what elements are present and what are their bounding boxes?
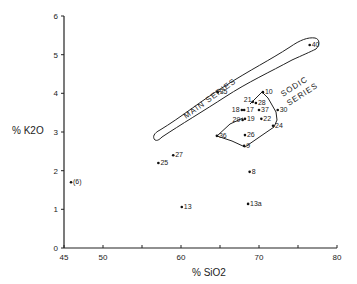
x-tick-label: 70	[255, 253, 264, 262]
y-tick-label: 1	[54, 205, 59, 214]
data-point-label: 36	[219, 132, 227, 139]
data-point	[247, 203, 250, 206]
data-point-label: 30	[280, 106, 288, 113]
data-point-label: 13	[184, 203, 192, 210]
data-point-label: 17	[246, 106, 254, 113]
y-tick-label: 6	[54, 12, 59, 21]
data-point	[244, 134, 247, 137]
x-tick-label: 50	[99, 253, 108, 262]
data-point-label: 9	[246, 142, 250, 149]
data-point-label: 18	[232, 106, 240, 113]
data-point-label: (6)	[73, 178, 82, 186]
y-axis-label: % K2O	[12, 125, 44, 136]
data-point-label: 25	[160, 159, 168, 166]
data-point-label: 26	[247, 131, 255, 138]
data-point	[157, 162, 160, 165]
data-point	[308, 44, 311, 47]
data-point	[272, 125, 275, 128]
data-point-label: 8	[252, 168, 256, 175]
data-point	[251, 101, 254, 104]
data-point-label: 10	[265, 88, 273, 95]
y-tick-label: 5	[54, 51, 59, 60]
y-tick-label: 4	[54, 89, 59, 98]
data-point	[216, 91, 219, 94]
data-point	[260, 118, 263, 121]
data-point	[248, 171, 251, 174]
data-point	[243, 109, 246, 112]
data-point	[70, 181, 73, 184]
data-point	[243, 145, 246, 148]
data-point-label: 35	[220, 88, 228, 95]
chart-canvas: 0 1 2 3 4 5 6 45 50 60 70 80 % K2O % SiO…	[0, 0, 357, 284]
x-tick-label: 80	[333, 253, 342, 262]
data-point	[276, 109, 279, 112]
data-point	[255, 102, 258, 105]
data-point-label: 22	[263, 115, 271, 122]
data-point	[262, 91, 265, 94]
data-point-label: 24	[275, 122, 283, 129]
data-point	[172, 154, 175, 157]
data-point-label: 21	[244, 96, 252, 103]
data-point	[216, 135, 219, 138]
main-series-label: MAIN SERIES	[182, 77, 238, 121]
y-tick-label: 2	[54, 167, 59, 176]
y-tick-label: 3	[54, 128, 59, 137]
data-point	[258, 109, 261, 112]
data-point	[180, 206, 183, 209]
data-point-label: 40	[312, 41, 320, 48]
data-point	[244, 118, 247, 121]
x-axis-label: % SiO2	[192, 267, 226, 278]
x-tick-label: 45	[60, 253, 69, 262]
data-point-label: 29	[233, 116, 241, 123]
data-point-label: 19	[247, 115, 255, 122]
data-point	[241, 109, 244, 112]
data-point-label: 13a	[250, 200, 262, 207]
data-point-label: 37	[261, 106, 269, 113]
data-points: (6)252713813a926362919222418173730212810…	[70, 41, 320, 210]
y-ticks: 0 1 2 3 4 5 6	[54, 12, 64, 253]
data-point-label: 27	[175, 151, 183, 158]
data-point	[241, 119, 244, 122]
y-tick-label: 0	[54, 244, 59, 253]
data-point-label: 28	[258, 99, 266, 106]
x-tick-label: 60	[177, 253, 186, 262]
